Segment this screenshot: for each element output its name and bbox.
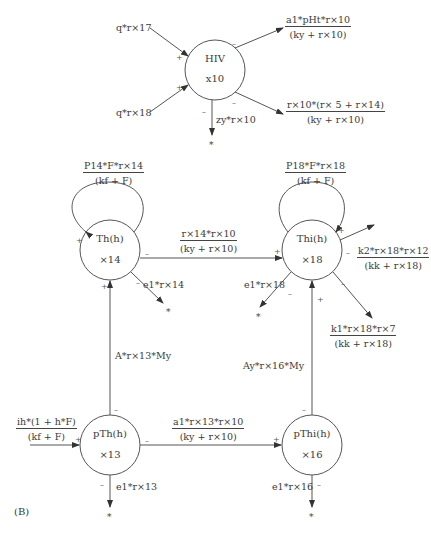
node-hiv-circle — [185, 40, 245, 100]
node-thi-var: ×18 — [282, 254, 342, 265]
label-pth-to-th: A*r×13*My — [115, 350, 171, 361]
sign-pthi-from-pth: + — [273, 436, 280, 444]
label-th-to-thi: r×14*r×10 (ky + r×10) — [180, 228, 237, 254]
arrow-hiv-in1 — [150, 28, 188, 56]
label-pth-input: ih*(1 + h*F) (kf + F) — [16, 416, 77, 442]
label-hiv-out2: r×10*(r× 5 + r×14) (ky + r×10) — [286, 99, 385, 125]
node-th-name: Th(h) — [80, 233, 140, 244]
sign-thi-decay: – — [288, 290, 292, 298]
sign-thi-from-pthi: + — [317, 296, 324, 304]
node-hiv-var: x10 — [185, 73, 245, 84]
loop-th-self — [72, 182, 143, 232]
sign-hiv-out2: – — [232, 99, 236, 107]
label-th-self: P14*F*r×14 (kf + F) — [83, 160, 144, 186]
label-thi-out2: k1*r×18*r×7 (kk + r×18) — [330, 323, 396, 349]
node-pth-name: pTh(h) — [80, 428, 140, 439]
node-thi-circle — [282, 220, 342, 280]
sign-th-to-thi: – — [145, 250, 149, 258]
node-th-circle — [80, 220, 140, 280]
sign-pth-to-pthi: – — [145, 437, 149, 445]
sign-pth-decay: – — [100, 481, 104, 489]
sign-pth-input: + — [75, 436, 82, 444]
label-hiv-out1: a1*pHt*r×10 (ky + r×10) — [285, 14, 351, 40]
sign-thi-self: + — [338, 227, 345, 235]
sign-pthi-decay: – — [317, 481, 321, 489]
loop-thi-self — [279, 182, 344, 232]
label-th-decay: e1*r×14 — [143, 279, 184, 290]
sign-pthi-to-thi: – — [302, 406, 306, 414]
label-thi-out1: k2*r×18*r×12 (kk + r×18) — [357, 245, 429, 271]
sink-pth: * — [107, 512, 112, 522]
label-hiv-out3: zy*r×10 — [216, 114, 256, 125]
sink-th: * — [166, 307, 171, 317]
arrow-hiv-out2 — [235, 92, 283, 114]
sign-th-from-pth: + — [101, 283, 108, 291]
sign-thi-from-th: + — [274, 248, 281, 256]
node-pthi-name: pThi(h) — [282, 428, 342, 439]
panel-label: (B) — [14, 506, 29, 517]
sign-thi-out2: – — [341, 280, 345, 288]
node-pthi-circle — [282, 415, 342, 475]
label-hiv-in1: q*r×17 — [116, 22, 151, 33]
arrow-hiv-out1 — [235, 28, 283, 48]
sign-hiv-out1: – — [232, 40, 236, 48]
label-pthi-to-thi: Ay*r×16*My — [243, 360, 304, 371]
node-thi-name: Thi(h) — [282, 233, 342, 244]
sign-hiv-in2: + — [176, 84, 183, 92]
sign-th-self: + — [76, 237, 83, 245]
node-pth-var: ×13 — [80, 449, 140, 460]
label-pth-decay: e1*r×13 — [116, 481, 157, 492]
arrow-thi-out2 — [333, 272, 372, 318]
node-hiv-name: HIV — [185, 53, 245, 64]
node-pthi-var: ×16 — [282, 449, 342, 460]
sign-hiv-out3: – — [202, 108, 206, 116]
sign-pth-to-th: – — [114, 406, 118, 414]
sign-th-decay: – — [136, 279, 140, 287]
arrow-thi-out1 — [340, 225, 374, 240]
label-thi-self: P18*F*r×18 (kf + F) — [285, 160, 346, 186]
label-thi-decay: e1*r×18 — [244, 279, 285, 290]
sink-pthi: * — [309, 512, 314, 522]
label-hiv-in2: q*r×18 — [116, 107, 151, 118]
sink-hiv: * — [209, 140, 214, 150]
label-pthi-decay: e1*r×16 — [272, 481, 313, 492]
node-pth-circle — [80, 415, 140, 475]
node-th-var: ×14 — [80, 254, 140, 265]
sign-hiv-in1: + — [176, 54, 183, 62]
sink-thi: * — [256, 312, 261, 322]
sign-thi-out1: – — [346, 249, 350, 257]
label-pth-to-pthi: a1*r×13*r×10 (ky + r×10) — [172, 416, 244, 442]
